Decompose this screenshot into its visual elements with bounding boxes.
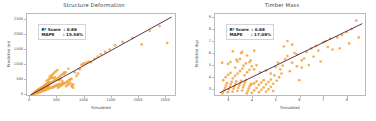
x-tick-label: 6 [298, 98, 300, 102]
x-tick-label: 8 [346, 98, 348, 102]
scatter-point [234, 75, 237, 78]
y-tick-mark [24, 19, 26, 20]
scatter-point [262, 79, 265, 82]
scatter-point [242, 64, 245, 67]
y-tick-label: 7 [197, 39, 211, 43]
scatter-point [75, 75, 78, 78]
scatter-point [265, 90, 268, 93]
scatter-point [300, 59, 303, 62]
scatter-point [63, 71, 66, 74]
x-axis-label: Simulated [214, 105, 366, 110]
y-tick-label: 6 [197, 51, 211, 55]
scatter-point [245, 92, 248, 95]
scatter-point [140, 43, 143, 46]
scatter-point [267, 81, 270, 84]
scatter-point [67, 67, 70, 70]
chart-panel-structure-deformation: Structure Deformation 050010001500200025… [0, 0, 188, 121]
scatter-point [231, 50, 234, 53]
scatter-point [331, 48, 334, 51]
y-tick-mark [24, 94, 26, 95]
metrics-annotation-box: R² Score : 0.68MAPE : 17.08% [226, 24, 274, 40]
scatter-point [317, 49, 320, 52]
scatter-point [258, 84, 261, 87]
scatter-point [61, 80, 64, 83]
scatter-point [269, 85, 272, 88]
scatter-point [291, 61, 294, 64]
scatter-point [235, 80, 238, 83]
chart-title: Timber Mass [188, 2, 376, 8]
scatter-point [253, 89, 256, 92]
y-tick-mark [212, 77, 214, 78]
y-tick-mark [24, 64, 26, 65]
scatter-point [230, 81, 233, 84]
scatter-point [255, 80, 258, 83]
scatter-point [236, 72, 239, 75]
scatter-point [229, 83, 232, 86]
scatter-point [229, 61, 232, 64]
scatter-point [248, 69, 251, 72]
scatter-point [56, 69, 59, 72]
scatter-point [246, 54, 249, 57]
x-tick-label: 1000 [79, 98, 88, 102]
scatter-point [249, 59, 252, 62]
x-tick-label: 5 [275, 98, 277, 102]
chart-panel-timber-mass: Timber Mass 3456783456789SimulatedPredic… [188, 0, 376, 121]
y-axis-label: Predicted (kg) [194, 39, 199, 66]
scatter-point [243, 74, 246, 77]
scatter-point [72, 86, 75, 89]
scatter-point [300, 66, 303, 69]
scatter-point [272, 90, 275, 93]
x-tick-label: 0 [28, 98, 30, 102]
x-tick-label: 7 [322, 98, 324, 102]
scatter-point [241, 51, 244, 54]
y-axis-label: Predicted (m) [6, 40, 11, 66]
scatter-point [227, 63, 230, 66]
scatter-point [312, 55, 315, 58]
scatter-point [286, 55, 289, 58]
scatter-point [166, 42, 169, 45]
scatter-point [250, 65, 253, 68]
x-tick-label: 2500 [161, 98, 170, 102]
scatter-point [245, 62, 248, 65]
y-tick-label: 5 [197, 63, 211, 67]
scatter-point [303, 57, 306, 60]
scatter-point [275, 79, 278, 82]
scatter-point [296, 65, 299, 68]
scatter-point [55, 84, 58, 87]
scatter-point [70, 77, 73, 80]
scatter-point [221, 92, 224, 95]
y-tick-mark [212, 29, 214, 30]
x-tick-label: 4 [251, 98, 253, 102]
x-tick-label: 2000 [133, 98, 142, 102]
x-tick-label: 3 [227, 98, 229, 102]
y-tick-mark [24, 49, 26, 50]
scatter-point [255, 64, 258, 67]
y-tick-mark [212, 17, 214, 18]
scatter-point [239, 58, 242, 61]
scatter-point [307, 64, 310, 67]
x-tick-label: 500 [53, 98, 60, 102]
scatter-point [227, 73, 230, 76]
scatter-point [279, 68, 282, 71]
scatter-point [222, 79, 225, 82]
scatter-point [241, 67, 244, 70]
figure-root: Structure Deformation 050010001500200025… [0, 0, 376, 121]
scatter-point [250, 83, 253, 86]
scatter-point [357, 36, 360, 39]
y-tick-mark [212, 65, 214, 66]
scatter-point [260, 88, 263, 91]
scatter-point [229, 72, 232, 75]
scatter-point [319, 60, 322, 63]
scatter-point [253, 82, 256, 85]
scatter-point [158, 25, 161, 28]
y-tick-mark [24, 34, 26, 35]
scatter-point [224, 87, 227, 90]
scatter-point [226, 82, 229, 85]
scatter-point [355, 19, 358, 22]
scatter-point [273, 74, 276, 77]
y-tick-label: 1500 [9, 47, 23, 51]
mape-text: MAPE : 17.08% [229, 32, 271, 38]
scatter-point [234, 66, 237, 69]
scatter-point [326, 46, 329, 49]
scatter-point [242, 86, 245, 89]
